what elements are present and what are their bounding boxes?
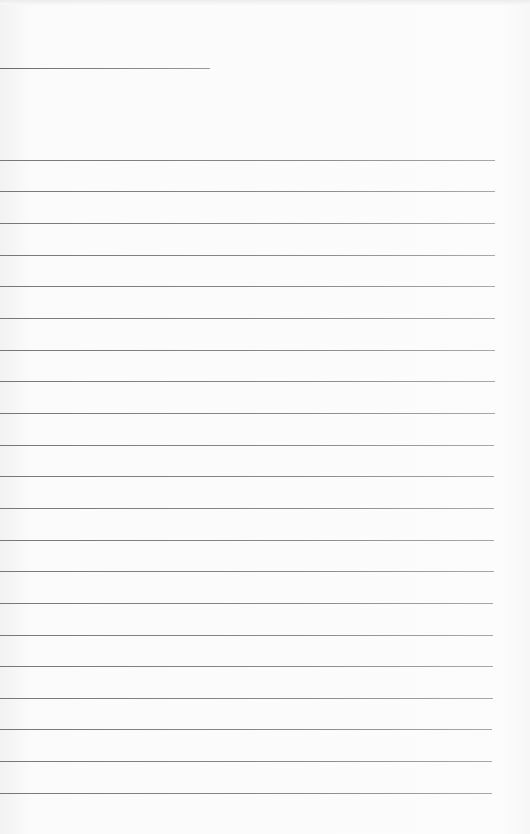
ruled-line: [0, 286, 495, 287]
ruled-line: [0, 635, 493, 636]
ruled-line: [0, 508, 494, 509]
ruled-line: [0, 255, 495, 256]
ruled-line: [0, 603, 493, 604]
ruled-line: [0, 729, 492, 730]
ruled-line: [0, 318, 495, 319]
ruled-line: [0, 445, 494, 446]
header-line: [0, 68, 210, 69]
ruled-line: [0, 350, 495, 351]
ruled-line: [0, 540, 494, 541]
scan-top-edge: [0, 0, 530, 5]
ruled-line: [0, 761, 492, 762]
ruled-line: [0, 571, 494, 572]
ruled-line: [0, 698, 493, 699]
ruled-line: [0, 160, 495, 161]
ruled-line: [0, 666, 493, 667]
ruled-line: [0, 381, 495, 382]
ruled-line: [0, 223, 495, 224]
ruled-line: [0, 413, 495, 414]
document-page: [0, 0, 530, 834]
ruled-line: [0, 793, 492, 794]
ruled-line: [0, 191, 495, 192]
ruled-line: [0, 476, 494, 477]
